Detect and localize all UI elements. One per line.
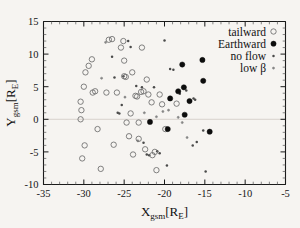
y-tick-label: 5 bbox=[33, 82, 38, 93]
data-point-tailward bbox=[95, 126, 100, 131]
data-point-low bbox=[124, 96, 126, 98]
legend-label-low: low β bbox=[240, 62, 266, 75]
data-point-tailward bbox=[142, 147, 147, 152]
x-tick-label: -30 bbox=[77, 188, 91, 199]
data-point-noflow bbox=[120, 104, 123, 107]
data-point-low bbox=[167, 109, 169, 111]
data-point-noflow bbox=[142, 142, 145, 145]
data-point-low bbox=[155, 116, 157, 118]
data-point-tailward bbox=[81, 84, 86, 89]
data-point-noflow bbox=[118, 112, 121, 115]
data-point-tailward bbox=[78, 99, 83, 104]
data-point-tailward bbox=[130, 70, 135, 75]
x-tick-label: -10 bbox=[238, 188, 252, 199]
data-point-tailward bbox=[121, 58, 126, 63]
data-point-noflow bbox=[111, 55, 114, 58]
data-point-tailward bbox=[109, 36, 114, 41]
legend-marker-low bbox=[272, 67, 274, 69]
data-point-tailward bbox=[149, 100, 154, 105]
data-point-tailward bbox=[86, 63, 91, 68]
data-point-noflow bbox=[135, 85, 138, 88]
y-axis-title: Ygsm[RE] bbox=[3, 79, 20, 126]
data-point-earthward bbox=[180, 62, 185, 67]
data-point-noflow bbox=[196, 141, 199, 144]
data-point-noflow bbox=[191, 144, 194, 147]
data-point-tailward bbox=[139, 45, 144, 50]
y-tick-label: 10 bbox=[28, 49, 39, 60]
legend-marker-earthward bbox=[271, 41, 276, 46]
scatter-plot-figure: -35-30-25-20-15-10-5-10-5051015 tailward… bbox=[0, 0, 300, 228]
data-point-tailward bbox=[146, 92, 151, 97]
data-point-tailward bbox=[157, 92, 162, 97]
data-point-low bbox=[177, 116, 179, 118]
data-point-tailward bbox=[114, 90, 119, 95]
data-point-tailward bbox=[80, 156, 85, 161]
legend-marker-noflow bbox=[272, 55, 275, 58]
data-point-tailward bbox=[121, 38, 126, 43]
data-point-tailward bbox=[118, 45, 123, 50]
data-point-tailward bbox=[82, 143, 87, 148]
data-point-noflow bbox=[141, 86, 144, 89]
x-tick-label: -15 bbox=[198, 188, 212, 199]
y-tick-label: 15 bbox=[28, 16, 39, 27]
data-point-noflow bbox=[146, 153, 149, 156]
y-tick-label: -5 bbox=[30, 147, 39, 158]
data-point-noflow bbox=[204, 170, 207, 173]
data-point-noflow bbox=[202, 129, 205, 132]
data-point-tailward bbox=[130, 152, 135, 157]
data-point-noflow bbox=[169, 68, 172, 71]
data-point-earthward bbox=[207, 129, 212, 134]
data-point-noflow bbox=[127, 40, 130, 43]
data-point-tailward bbox=[126, 134, 131, 139]
data-point-tailward bbox=[124, 120, 129, 125]
data-point-noflow bbox=[163, 39, 166, 42]
data-point-tailward bbox=[79, 107, 84, 112]
x-axis-title: Xgsm[RE] bbox=[141, 204, 188, 221]
data-point-noflow bbox=[153, 86, 156, 89]
data-point-tailward bbox=[159, 102, 164, 107]
data-point-tailward bbox=[144, 77, 149, 82]
data-point-earthward bbox=[147, 119, 152, 124]
x-tick-label: -5 bbox=[281, 188, 290, 199]
data-point-tailward bbox=[89, 57, 94, 62]
legend-label-noflow: no flow bbox=[231, 50, 267, 62]
data-point-tailward bbox=[128, 111, 133, 116]
data-point-noflow bbox=[158, 152, 161, 155]
data-point-earthward bbox=[201, 78, 206, 83]
data-points bbox=[78, 36, 212, 172]
data-point-earthward bbox=[187, 98, 192, 103]
data-point-low bbox=[186, 137, 188, 139]
data-point-low bbox=[181, 122, 183, 124]
legend-label-tailward: tailward bbox=[228, 26, 266, 38]
legend-marker-tailward bbox=[271, 29, 276, 34]
data-point-tailward bbox=[174, 101, 179, 106]
data-point-earthward bbox=[182, 112, 187, 117]
data-point-tailward bbox=[154, 167, 159, 172]
y-tick-label: -10 bbox=[25, 179, 39, 190]
data-point-tailward bbox=[83, 70, 88, 75]
x-tick-label: -35 bbox=[37, 188, 51, 199]
data-point-low bbox=[143, 112, 145, 114]
data-point-noflow bbox=[172, 68, 175, 71]
legend: tailwardEarthwardno flowlow β bbox=[218, 26, 276, 76]
data-point-earthward bbox=[168, 96, 173, 101]
data-point-low bbox=[162, 110, 164, 112]
data-point-earthward bbox=[176, 89, 181, 94]
x-tick-label: -20 bbox=[158, 188, 172, 199]
data-point-noflow bbox=[194, 98, 197, 101]
data-point-tailward bbox=[136, 120, 141, 125]
data-point-noflow bbox=[129, 46, 132, 49]
plot-canvas: -35-30-25-20-15-10-5-10-5051015 tailward… bbox=[0, 0, 300, 228]
y-tick-label: 0 bbox=[33, 114, 38, 125]
data-point-earthward bbox=[181, 85, 186, 90]
data-point-noflow bbox=[166, 164, 169, 167]
data-point-tailward bbox=[98, 166, 103, 171]
data-point-tailward bbox=[104, 90, 109, 95]
data-point-earthward bbox=[200, 57, 205, 62]
data-point-earthward bbox=[165, 126, 170, 131]
data-point-tailward bbox=[111, 142, 116, 147]
x-tick-label: -25 bbox=[117, 188, 131, 199]
data-point-noflow bbox=[113, 76, 116, 79]
legend-label-earthward: Earthward bbox=[218, 38, 266, 50]
data-point-low bbox=[101, 77, 103, 79]
